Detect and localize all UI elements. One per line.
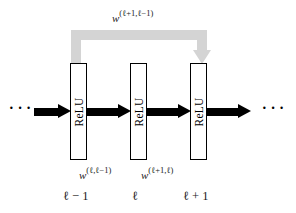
skip-connection-arrowhead-icon [193, 50, 211, 64]
skip-connection-horizontal-segment [71, 30, 207, 40]
arrow-shaft [146, 108, 179, 116]
right-continuation-ellipsis: ··· [261, 98, 287, 118]
layer-index-label-l-plus-1: ℓ + 1 [183, 189, 209, 204]
skip-connection-vertical-segment-left [71, 30, 81, 66]
left-continuation-ellipsis: ··· [8, 98, 34, 118]
output-flow-arrow-icon [206, 104, 251, 119]
arrow-head [238, 104, 251, 118]
network-layer-diagram: w(ℓ+1,ℓ−1) ··· ReLU ReLU ReLU ··· w(ℓ,ℓ−… [0, 0, 296, 213]
relu-label-l-plus-1: ReLU [193, 97, 205, 126]
layer-index-label-l: ℓ [132, 189, 138, 204]
skip-connection-vertical-segment-right [197, 30, 207, 52]
input-flow-arrow-icon [34, 104, 71, 119]
weight-superscript: (ℓ+1,ℓ) [148, 165, 173, 175]
arrow-shaft [86, 108, 119, 116]
relu-label-l: ReLU [133, 97, 145, 126]
skip-weight-label: w(ℓ+1,ℓ−1) [112, 8, 153, 26]
arrow-shaft [206, 108, 239, 116]
weight-superscript: (ℓ,ℓ−1) [86, 165, 111, 175]
arrow-shaft [34, 108, 59, 116]
relu-label-l-minus-1: ReLU [73, 97, 85, 126]
weight-label-l-plus-1-from-l: w(ℓ+1,ℓ) [141, 165, 173, 183]
layer-box-l-plus-1: ReLU [190, 63, 207, 160]
layer-box-l-minus-1: ReLU [70, 63, 87, 160]
layer-box-l: ReLU [130, 63, 147, 160]
layer-index-label-l-minus-1: ℓ − 1 [63, 189, 89, 204]
flow-arrow-l-to-l-plus-1-icon [146, 104, 191, 119]
flow-arrow-l-minus-1-to-l-icon [86, 104, 131, 119]
weight-label-l-from-l-minus-1: w(ℓ,ℓ−1) [79, 165, 111, 183]
skip-weight-superscript: (ℓ+1,ℓ−1) [119, 8, 153, 18]
